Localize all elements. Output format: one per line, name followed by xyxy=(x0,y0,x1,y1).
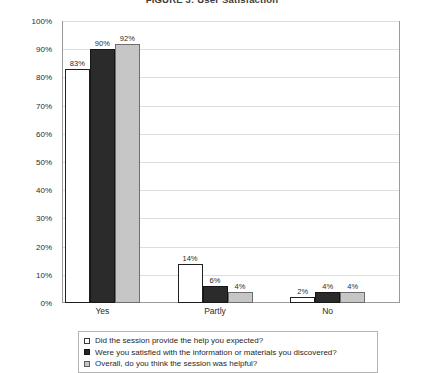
gridline xyxy=(63,218,399,219)
x-axis-tick-label: Partly xyxy=(204,306,226,316)
gridline xyxy=(63,49,399,50)
y-axis-tick-label: 10% xyxy=(36,270,52,279)
x-axis-tick-label: Yes xyxy=(95,306,109,316)
legend-swatch-icon xyxy=(84,361,90,367)
gridline xyxy=(63,106,399,107)
legend-item[interactable]: Did the session provide the help you exp… xyxy=(84,335,372,347)
y-axis-tick-label: 50% xyxy=(36,158,52,167)
legend-item-label: Did the session provide the help you exp… xyxy=(95,336,263,345)
chart-title: FIGURE 3: User Satisfaction xyxy=(0,0,424,5)
y-axis-tick-label: 90% xyxy=(36,45,52,54)
y-axis-tick-label: 20% xyxy=(36,242,52,251)
legend-item-label: Overall, do you think the session was he… xyxy=(95,359,257,368)
y-axis-tick-label: 100% xyxy=(32,17,52,26)
y-axis-tick-label: 0% xyxy=(40,299,52,308)
x-axis: YesPartlyNo xyxy=(62,306,400,322)
x-axis-tick-label: No xyxy=(322,306,333,316)
legend-swatch-icon xyxy=(84,338,90,344)
gridline xyxy=(63,247,399,248)
legend-item[interactable]: Were you satisfied with the information … xyxy=(84,347,372,359)
y-axis-tick-label: 40% xyxy=(36,186,52,195)
legend-swatch-icon xyxy=(84,349,90,355)
gridline xyxy=(63,21,399,22)
y-axis-tick-label: 30% xyxy=(36,214,52,223)
gridline xyxy=(63,162,399,163)
chart-legend: Did the session provide the help you exp… xyxy=(78,331,378,373)
legend-item-label: Were you satisfied with the information … xyxy=(95,348,337,357)
gridline xyxy=(63,275,399,276)
legend-item[interactable]: Overall, do you think the session was he… xyxy=(84,358,372,370)
plot-area xyxy=(62,21,400,303)
y-axis-tick-label: 60% xyxy=(36,129,52,138)
y-axis-tick-label: 80% xyxy=(36,73,52,82)
gridline xyxy=(63,190,399,191)
gridline xyxy=(63,134,399,135)
gridline xyxy=(63,77,399,78)
y-axis-tick-label: 70% xyxy=(36,101,52,110)
y-axis: 0%10%20%30%40%50%60%70%80%90%100% xyxy=(0,21,56,303)
